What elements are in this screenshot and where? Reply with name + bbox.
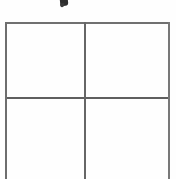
table-cell (86, 24, 168, 97)
table-cell (86, 99, 168, 179)
ink-mark-icon (60, 0, 69, 6)
scanned-page (0, 0, 176, 179)
table-cell (7, 24, 84, 97)
table-border-right (168, 22, 170, 179)
table-grid (5, 22, 170, 179)
table-cell (7, 99, 84, 179)
